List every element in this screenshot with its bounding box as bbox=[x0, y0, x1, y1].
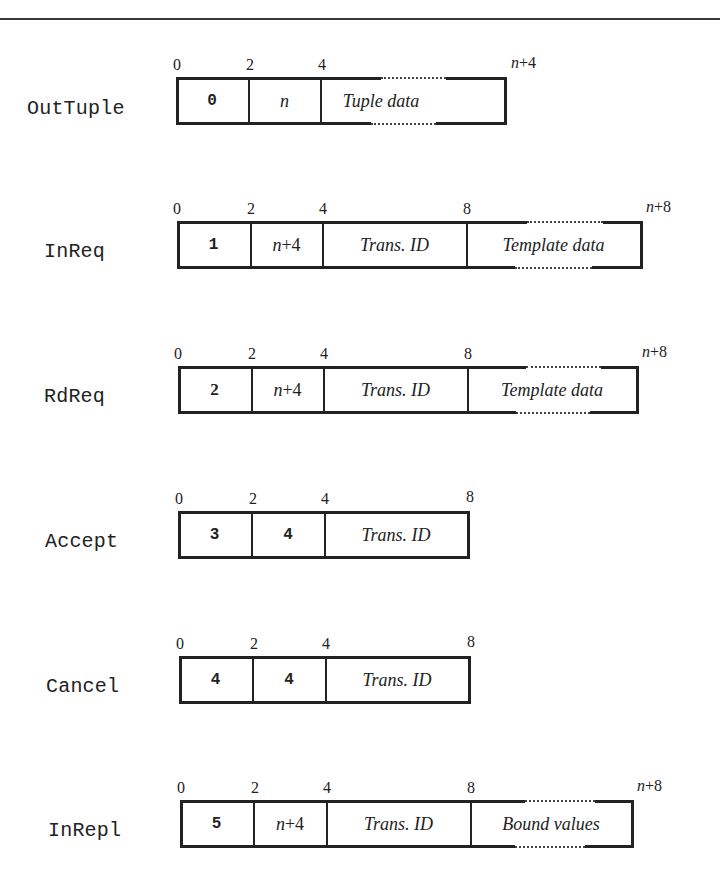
offset-label: 2 bbox=[247, 201, 255, 217]
offset-label-end: n+8 bbox=[637, 778, 662, 794]
packet-box: 4 4 Trans. ID bbox=[179, 656, 471, 704]
field-bound-values: Bound values bbox=[471, 800, 631, 848]
field-length: n+4 bbox=[252, 366, 323, 414]
offset-label: 8 bbox=[466, 489, 474, 505]
offset-label: 0 bbox=[175, 491, 183, 507]
offset-label: 0 bbox=[176, 636, 184, 652]
offset-label-end: n+8 bbox=[642, 344, 667, 360]
offset-label: 4 bbox=[322, 636, 330, 652]
message-name: OutTuple bbox=[27, 97, 125, 120]
field-trans-id: Trans. ID bbox=[325, 511, 467, 559]
message-name: RdReq bbox=[44, 385, 105, 408]
message-name: Cancel bbox=[46, 675, 119, 698]
offset-label: 2 bbox=[249, 491, 257, 507]
offset-label: 0 bbox=[173, 201, 181, 217]
field-type-code: 5 bbox=[180, 800, 253, 848]
message-name: Accept bbox=[45, 530, 118, 553]
message-inrepl: InRepl 0 2 4 8 n+8 5 n+4 Trans. ID Bound… bbox=[0, 0, 720, 100]
packet-box: 5 n+4 Trans. ID Bound values bbox=[180, 800, 634, 848]
message-name: InRepl bbox=[48, 819, 121, 842]
packet-box: 3 4 Trans. ID bbox=[178, 511, 470, 559]
offset-label: 0 bbox=[177, 780, 185, 796]
field-length: 4 bbox=[253, 656, 325, 704]
packet-box: 2 n+4 Trans. ID Template data bbox=[178, 366, 639, 414]
field-type-code: 3 bbox=[178, 511, 251, 559]
offset-label: 8 bbox=[464, 346, 472, 362]
offset-label: 2 bbox=[250, 636, 258, 652]
field-trans-id: Trans. ID bbox=[326, 656, 468, 704]
field-length: 4 bbox=[252, 511, 324, 559]
offset-label-end: n+8 bbox=[646, 199, 671, 215]
offset-label: 4 bbox=[320, 346, 328, 362]
offset-label: 8 bbox=[467, 780, 475, 796]
offset-label: 8 bbox=[463, 201, 471, 217]
packet-box: 1 n+4 Trans. ID Template data bbox=[177, 221, 643, 269]
offset-label: 8 bbox=[467, 634, 475, 650]
field-length: n+4 bbox=[251, 221, 322, 269]
field-length: n+4 bbox=[254, 800, 326, 848]
field-template-data: Template data bbox=[467, 221, 640, 269]
offset-label: 4 bbox=[319, 201, 327, 217]
offset-label: 2 bbox=[248, 346, 256, 362]
field-type-code: 2 bbox=[178, 366, 251, 414]
field-type-code: 1 bbox=[177, 221, 250, 269]
field-trans-id: Trans. ID bbox=[324, 366, 467, 414]
offset-label: 2 bbox=[251, 780, 259, 796]
field-template-data: Template data bbox=[468, 366, 636, 414]
message-name: InReq bbox=[44, 240, 105, 263]
offset-label: 4 bbox=[321, 491, 329, 507]
field-type-code: 4 bbox=[179, 656, 252, 704]
offset-label: 4 bbox=[323, 780, 331, 796]
field-trans-id: Trans. ID bbox=[327, 800, 470, 848]
field-trans-id: Trans. ID bbox=[323, 221, 466, 269]
offset-label: 0 bbox=[174, 346, 182, 362]
